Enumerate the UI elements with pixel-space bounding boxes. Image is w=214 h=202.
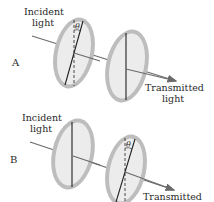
polarizer-1-b — [45, 114, 101, 193]
transmitted-light-label-a-line1: Transmitted — [145, 82, 204, 93]
transmitted-light-label-a-line2: light — [162, 93, 184, 104]
panel-b: Incident light B θ Transmitted — [10, 112, 202, 202]
theta-label-a: θ — [75, 22, 80, 31]
transmitted-light-label-b: Transmitted — [143, 191, 202, 202]
polarizer-2-a — [99, 25, 155, 106]
incident-light-label-b-line2: light — [30, 123, 52, 134]
panel-a: Incident light A θ Transmitted light — [11, 6, 204, 107]
polarizer-diagram: Incident light A θ Transmitted light Inc… — [0, 0, 214, 202]
incident-light-label-b-line1: Incident — [22, 112, 62, 123]
polarizer-1-a: θ — [47, 14, 101, 93]
panel-label-b: B — [10, 154, 17, 165]
panel-label-a: A — [11, 57, 20, 68]
theta-label-b: θ — [126, 140, 131, 149]
incident-light-label-a-line1: Incident — [24, 6, 64, 17]
incident-light-label-a-line2: light — [32, 17, 54, 28]
